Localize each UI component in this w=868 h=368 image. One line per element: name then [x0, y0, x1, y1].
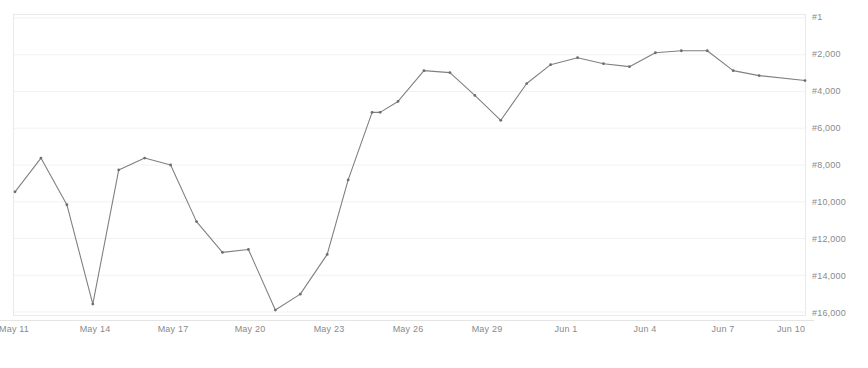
data-point	[397, 100, 400, 103]
data-point	[14, 190, 17, 193]
sales-rank-line	[15, 51, 805, 310]
data-point	[117, 169, 120, 172]
data-point	[804, 79, 807, 82]
data-point	[169, 164, 172, 167]
x-axis-tick-labels: May 11May 14May 17May 20May 23May 26May …	[0, 324, 868, 344]
data-point	[758, 74, 761, 77]
y-axis-tick-labels: #1#2,000#4,000#6,000#8,000#10,000#12,000…	[812, 0, 868, 368]
data-point	[91, 303, 94, 306]
x-tick-label: Jun 10	[777, 324, 805, 335]
y-tick-label: #2,000	[812, 49, 841, 59]
data-point	[602, 62, 605, 65]
x-tick-label: May 14	[80, 324, 111, 335]
y-tick-label: #14,000	[812, 271, 846, 281]
x-tick-label: Jun 7	[711, 324, 734, 335]
data-point	[247, 248, 250, 251]
x-tick-label: May 29	[472, 324, 503, 335]
y-tick-label: #10,000	[812, 197, 846, 207]
x-tick-label: May 20	[235, 324, 266, 335]
y-tick-label: #1	[812, 12, 822, 22]
series-layer	[14, 15, 805, 315]
data-point	[628, 65, 631, 68]
data-point	[143, 157, 146, 160]
x-tick-label: Jun 1	[554, 324, 577, 335]
data-point	[449, 71, 452, 74]
y-tick-label: #12,000	[812, 234, 846, 244]
y-tick-label: #6,000	[812, 123, 841, 133]
data-point	[576, 56, 579, 59]
y-tick-label: #4,000	[812, 86, 841, 96]
data-point	[549, 63, 552, 66]
data-point	[654, 51, 657, 54]
data-point	[473, 94, 476, 97]
data-point	[65, 203, 68, 206]
y-tick-label: #16,000	[812, 308, 846, 318]
plot-area	[13, 14, 806, 316]
x-tick-label: May 17	[158, 324, 189, 335]
x-tick-label: May 26	[393, 324, 424, 335]
sales-rank-chart-widget: #1#2,000#4,000#6,000#8,000#10,000#12,000…	[0, 0, 868, 368]
x-tick-label: May 11	[0, 324, 29, 335]
data-point	[525, 82, 528, 85]
x-tick-label: Jun 4	[633, 324, 656, 335]
data-point	[40, 157, 43, 160]
data-point	[347, 179, 350, 182]
data-point	[379, 111, 382, 114]
data-point	[195, 220, 198, 223]
data-point	[680, 49, 683, 52]
data-point	[423, 69, 426, 72]
data-point	[499, 119, 502, 122]
y-tick-label: #8,000	[812, 160, 841, 170]
x-tick-label: May 23	[314, 324, 345, 335]
x-axis-rule	[0, 320, 814, 321]
sales-rank-markers	[14, 49, 807, 311]
data-point	[732, 69, 735, 72]
data-point	[274, 309, 277, 312]
data-point	[221, 251, 224, 254]
data-point	[371, 111, 374, 114]
data-point	[706, 49, 709, 52]
data-point	[326, 253, 329, 256]
data-point	[299, 293, 302, 296]
